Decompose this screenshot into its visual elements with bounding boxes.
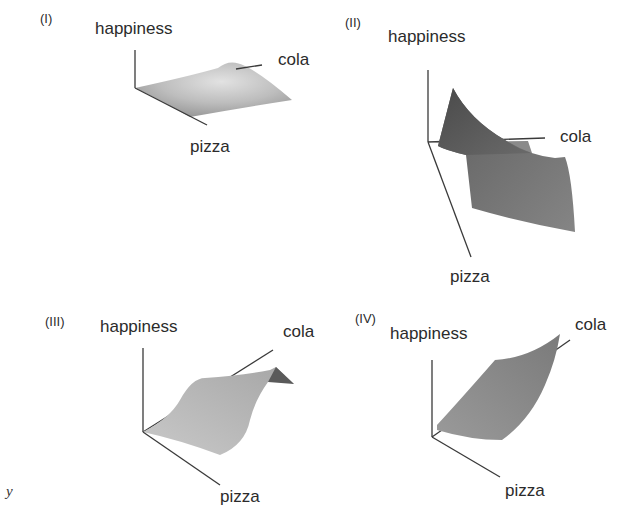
panel-2-pizza-label: pizza xyxy=(450,268,490,285)
panel-3-happiness-label: happiness xyxy=(100,318,178,335)
panel-3-label: (III) xyxy=(45,315,65,328)
pizza-axis xyxy=(432,437,500,477)
panel-1-pizza-label: pizza xyxy=(190,138,230,155)
pizza-axis xyxy=(428,142,471,257)
panel-1-plot xyxy=(135,50,292,125)
panel-4-plot xyxy=(432,334,570,477)
panel-3-plot xyxy=(143,348,294,485)
panel-2-plot xyxy=(428,70,575,257)
panel-3-pizza-label: pizza xyxy=(220,488,260,505)
stray-y-variable: y xyxy=(6,484,13,499)
panel-4-cola-label: cola xyxy=(575,316,606,333)
panel-4-label: (IV) xyxy=(355,312,376,325)
panel-2-label: (II) xyxy=(345,16,361,29)
surface-rising xyxy=(437,334,560,440)
panel-4-pizza-label: pizza xyxy=(505,482,545,499)
panel-4-happiness-label: happiness xyxy=(390,325,468,342)
panel-3-cola-label: cola xyxy=(283,323,314,340)
panel-1-label: (I) xyxy=(40,12,52,25)
panel-2-happiness-label: happiness xyxy=(388,28,466,45)
panel-1-happiness-label: happiness xyxy=(95,20,173,37)
surface-bump xyxy=(135,62,292,117)
panel-2-cola-label: cola xyxy=(560,128,591,145)
panel-1-cola-label: cola xyxy=(278,51,309,68)
